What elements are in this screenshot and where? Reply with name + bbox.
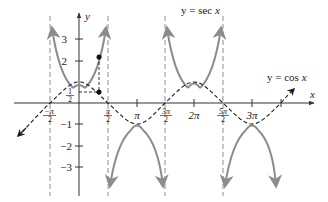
y-tick-label-neg3: −3: [60, 161, 72, 173]
half-label: 1 2: [66, 87, 74, 104]
x-label-pi: π: [134, 109, 140, 121]
x-label-5-half-pi: 5π 2: [217, 107, 229, 124]
sec-branch-3: [188, 84, 200, 89]
sec-branch-4: [246, 126, 258, 131]
svg-text:2: 2: [106, 115, 110, 124]
cos-curve-left-arrow: [18, 128, 26, 136]
point-sec-pi-3: [97, 55, 102, 60]
y-tick-label-neg1: −1: [60, 118, 72, 130]
sec-branch-2: [131, 126, 143, 131]
y-tick-label-neg2: −2: [60, 140, 72, 152]
svg-text:2: 2: [221, 115, 225, 124]
x-label-neg-half-pi: −π 2: [43, 107, 56, 124]
x-label-3pi: 3π: [245, 109, 258, 121]
cos-curve-label: y = cos x: [267, 71, 307, 83]
y-tick-label-2: 2: [62, 55, 68, 67]
sec-cos-graph: 3 2 −1 −2 −3 1 2 −π 2 π 2 π 3π 2 2π 5π 2…: [0, 0, 328, 202]
point-cos-pi-3: [97, 90, 102, 95]
x-axis-label: x: [309, 88, 315, 100]
sec-curve-label: y = sec x: [181, 4, 220, 16]
y-axis-label: y: [84, 10, 90, 22]
x-label-half-pi: π 2: [104, 107, 112, 124]
svg-text:2: 2: [48, 115, 52, 124]
x-label-3-half-pi: 3π 2: [160, 107, 172, 124]
x-label-2pi: 2π: [188, 109, 200, 121]
svg-text:2: 2: [68, 95, 72, 104]
svg-text:2: 2: [164, 115, 168, 124]
y-tick-label-3: 3: [62, 33, 68, 45]
